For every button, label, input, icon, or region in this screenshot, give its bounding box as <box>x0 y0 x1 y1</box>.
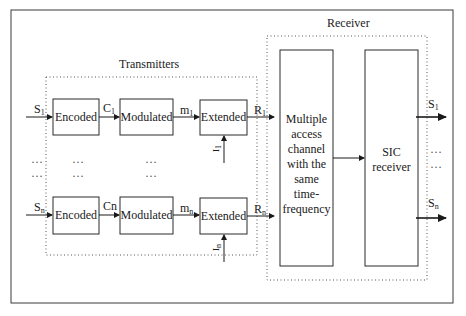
signal-rn: Rn <box>254 203 266 216</box>
transmitters-title: Transmitters <box>119 58 179 71</box>
sic-receiver-label: SIC receiver <box>365 145 418 175</box>
ellipsis-output-2: … <box>430 158 442 171</box>
signal-i1: I1 <box>210 145 223 152</box>
output-s1: S1 <box>428 98 439 111</box>
ellipsis-modulated-2: … <box>145 167 157 180</box>
encoded-label-1: Encoded <box>53 99 99 135</box>
receiver-title: Receiver <box>327 17 370 30</box>
signal-c1: C1 <box>103 102 115 115</box>
ellipsis-output-1: … <box>430 143 442 156</box>
extended-label-n: Extended <box>200 198 247 234</box>
signal-r1: R1 <box>254 104 266 117</box>
modulated-label-n: Modulated <box>120 197 173 234</box>
ellipsis-encoded-1: … <box>72 153 84 166</box>
modulated-label-1: Modulated <box>120 99 173 135</box>
ellipsis-input-1: … <box>31 153 43 166</box>
signal-sn-in: Sn <box>34 201 45 214</box>
signal-cn: Cn <box>103 200 117 213</box>
encoded-label-n: Encoded <box>53 197 99 234</box>
signal-mn: mn <box>180 202 193 215</box>
ellipsis-modulated-1: … <box>145 153 157 166</box>
channel-label: Multiple access channel with the same ti… <box>280 112 333 217</box>
signal-m1: m1 <box>180 104 193 117</box>
ellipsis-encoded-2: … <box>72 167 84 180</box>
ellipsis-input-2: … <box>31 167 43 180</box>
signal-s1-in: S1 <box>34 103 45 116</box>
extended-label-1: Extended <box>200 100 247 135</box>
signal-in: In <box>210 244 223 251</box>
output-sn: Sn <box>428 197 439 210</box>
